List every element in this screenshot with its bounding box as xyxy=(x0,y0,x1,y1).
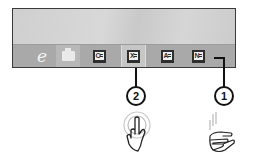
outlook-icon: O xyxy=(93,50,106,63)
taskbar-item-internet-explorer[interactable]: e xyxy=(31,45,53,67)
excel-icon: X xyxy=(127,50,140,63)
callout-2-badge: 2 xyxy=(126,86,146,106)
callout-1-badge: 1 xyxy=(214,86,234,106)
onenote-icon: N xyxy=(192,50,205,63)
tap-gesture-icon xyxy=(120,110,154,154)
swipe-gesture-icon xyxy=(205,110,241,154)
taskbar-item-excel[interactable]: X xyxy=(121,45,146,67)
taskbar-item-file-explorer[interactable] xyxy=(56,45,80,67)
desktop-screen: e O X A N xyxy=(12,8,236,68)
taskbar-item-access[interactable]: A xyxy=(156,45,178,67)
callout-1-leader-vertical xyxy=(223,57,225,87)
callout-2-leader-line xyxy=(135,68,137,87)
taskbar-item-outlook[interactable]: O xyxy=(88,45,110,67)
taskbar-item-onenote[interactable]: N xyxy=(187,45,209,67)
taskbar: e O X A N xyxy=(13,44,235,67)
internet-explorer-icon: e xyxy=(37,48,47,65)
file-explorer-icon xyxy=(62,51,75,61)
access-icon: A xyxy=(161,50,174,63)
